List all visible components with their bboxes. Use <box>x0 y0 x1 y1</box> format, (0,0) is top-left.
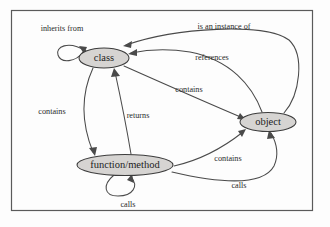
relationship-graph: class object function/method inherits fr… <box>0 0 330 227</box>
node-class[interactable]: class <box>79 48 129 68</box>
node-class-label: class <box>94 52 114 63</box>
edge-label-contains-class-function: contains <box>38 107 65 116</box>
edge-label-is-an-instance-of: is an instance of <box>198 22 251 31</box>
arrowhead-is-an-instance-of <box>123 41 132 48</box>
node-object[interactable]: object <box>240 113 296 132</box>
edge-path-contains-class-function <box>84 68 93 152</box>
edge-label-contains-class-object: contains <box>175 85 202 94</box>
arrowhead-contains-function-object <box>238 129 246 137</box>
node-function-method-label: function/method <box>90 159 160 170</box>
edge-is-an-instance-of <box>123 29 299 113</box>
node-object-label: object <box>255 116 281 127</box>
edge-label-calls-function-object: calls <box>231 181 246 190</box>
edge-path-is-an-instance-of <box>126 29 299 113</box>
node-function-method[interactable]: function/method <box>77 155 173 176</box>
edge-calls-self <box>106 174 134 196</box>
edge-label-inherits-from: inherits from <box>41 24 84 33</box>
edge-label-calls-self: calls <box>120 200 135 209</box>
edge-contains-class-function <box>84 68 97 156</box>
diagram-canvas: class object function/method inherits fr… <box>0 0 330 227</box>
edge-label-references: references <box>195 53 229 62</box>
edge-label-returns: returns <box>127 111 150 120</box>
arrowhead-references <box>128 49 137 56</box>
arrowhead-returns <box>111 68 120 77</box>
edge-label-contains-function-object: contains <box>214 154 241 163</box>
arrowhead-contains-class-function <box>89 147 97 156</box>
